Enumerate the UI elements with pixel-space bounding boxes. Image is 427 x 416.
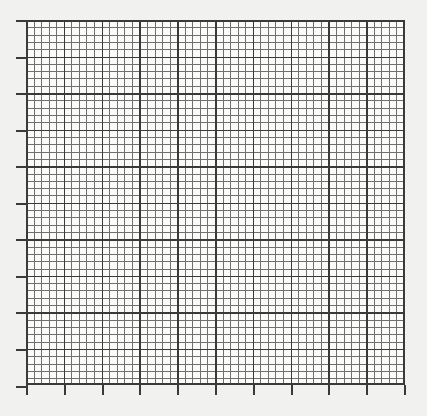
y-axis-tick — [16, 349, 26, 351]
y-axis-tick — [16, 166, 26, 168]
x-axis-tick — [102, 385, 104, 395]
plot-canvas — [0, 0, 427, 416]
y-axis-tick — [16, 20, 26, 22]
x-axis-tick — [215, 385, 217, 395]
x-axis-tick — [26, 385, 28, 395]
y-axis-tick — [16, 130, 26, 132]
x-axis-tick — [253, 385, 255, 395]
x-axis-tick — [139, 385, 141, 395]
y-axis-tick — [16, 57, 26, 59]
x-axis-tick — [177, 385, 179, 395]
y-axis-tick — [16, 93, 26, 95]
x-axis-tick — [366, 385, 368, 395]
y-axis-tick — [16, 312, 26, 314]
x-axis-tick — [291, 385, 293, 395]
grid-frame-border — [26, 20, 405, 385]
grid-plot-area — [26, 20, 405, 385]
y-axis-tick — [16, 386, 26, 388]
grid-lines — [26, 20, 405, 385]
x-axis-tick — [64, 385, 66, 395]
x-axis-tick — [328, 385, 330, 395]
y-axis-tick — [16, 239, 26, 241]
y-axis-tick — [16, 276, 26, 278]
x-axis-tick — [404, 385, 406, 395]
y-axis-tick — [16, 203, 26, 205]
